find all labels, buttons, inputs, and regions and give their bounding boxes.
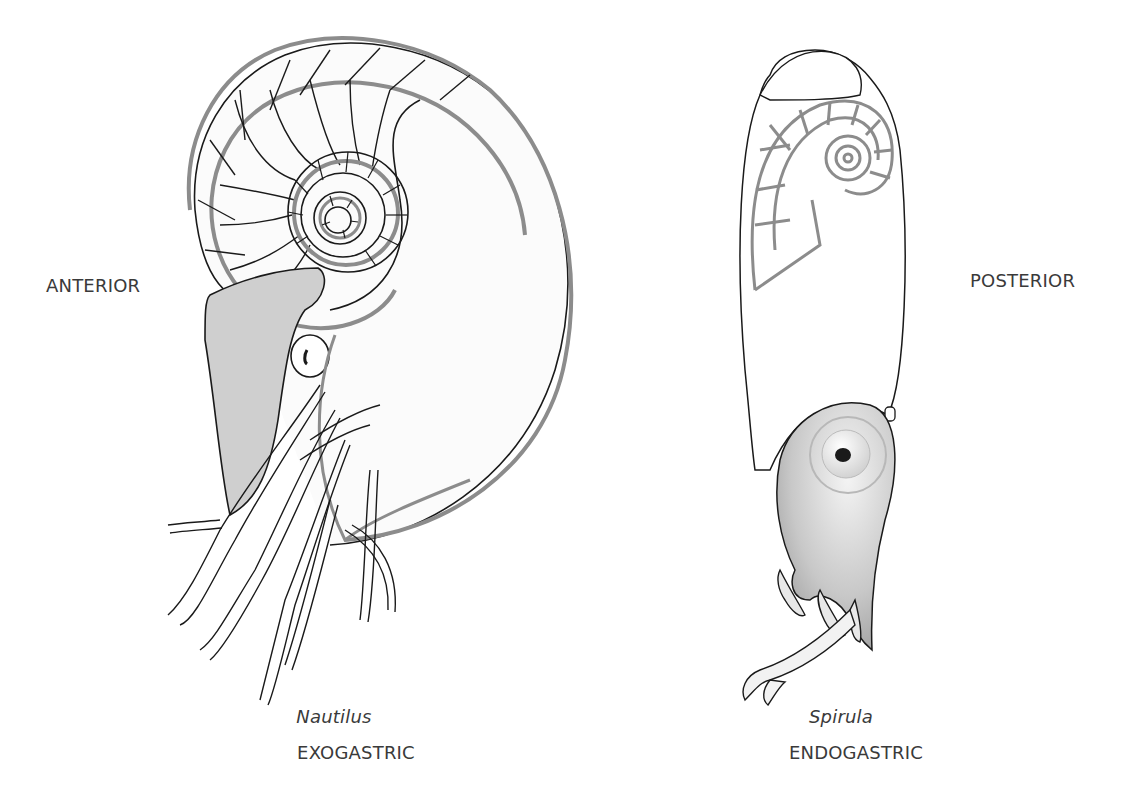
- nautilus-name-label: Nautilus: [296, 706, 371, 727]
- spirula-figure: [740, 50, 905, 705]
- posterior-label: POSTERIOR: [970, 270, 1075, 291]
- anterior-label: ANTERIOR: [46, 275, 140, 296]
- nautilus-coiling-label: EXOGASTRIC: [297, 742, 415, 763]
- nautilus-illustration: [0, 0, 1134, 799]
- nautilus-figure: [168, 38, 571, 705]
- spirula-name-label: Spirula: [809, 706, 873, 727]
- spirula-coiling-label: ENDOGASTRIC: [789, 742, 923, 763]
- spirula-mantle: [740, 50, 905, 470]
- nautilus-eye: [291, 335, 329, 377]
